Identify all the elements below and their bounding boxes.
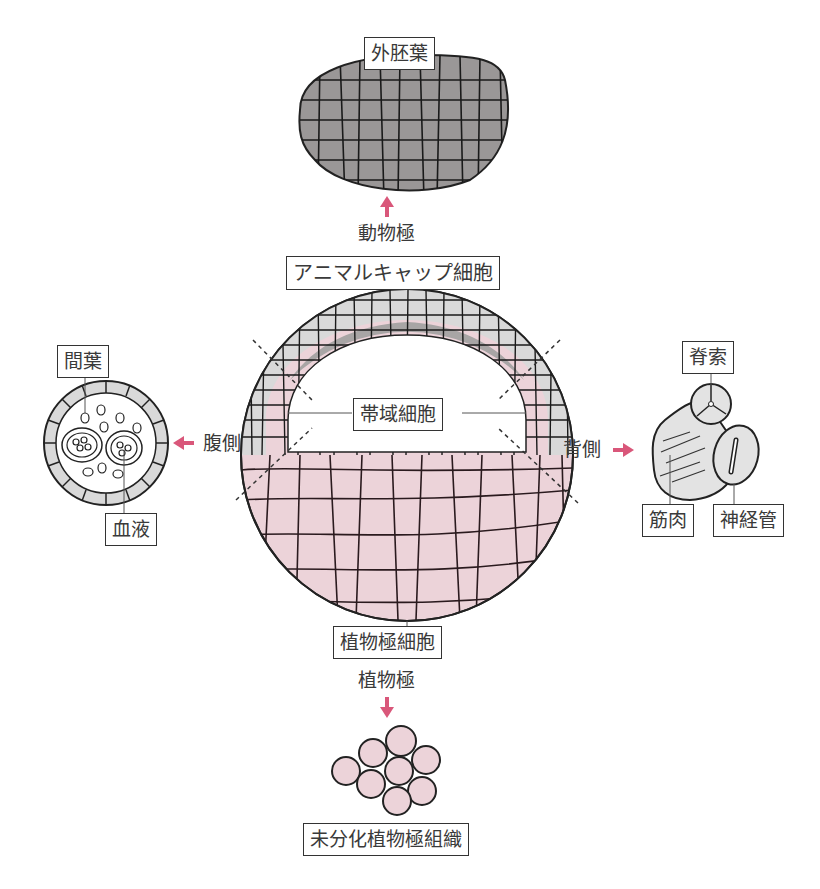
animal-cap-cells-label: アニマルキャップ細胞 <box>286 256 500 290</box>
neural-tube-label: 神経管 <box>713 504 784 537</box>
undifferentiated-vegetal-tissue-label: 未分化植物極組織 <box>303 823 469 856</box>
notochord-label: 脊索 <box>682 341 734 374</box>
ectoderm-label: 外胚葉 <box>364 37 435 70</box>
vegetal-pole-cells-label: 植物極細胞 <box>333 626 442 659</box>
muscle-label: 筋肉 <box>642 504 694 537</box>
undifferentiated-vegetal-cluster <box>332 726 440 815</box>
blastula <box>236 289 578 632</box>
diagram-canvas <box>0 0 820 889</box>
ventral-side-label: 腹側 <box>203 434 241 453</box>
vegetal-pole-label: 植物極 <box>358 671 415 690</box>
arrow-left-icon <box>173 436 194 450</box>
ventral-tissue <box>44 373 168 513</box>
animal-pole-label: 動物極 <box>358 224 415 243</box>
arrow-up-icon <box>380 196 394 217</box>
dorsal-tissue <box>653 372 765 504</box>
marginal-zone-cells-label: 帯域細胞 <box>353 398 443 431</box>
arrow-down-icon <box>380 697 394 718</box>
dorsal-side-label: 背側 <box>563 440 601 459</box>
arrow-right-icon <box>613 443 634 457</box>
blood-label: 血液 <box>105 513 157 546</box>
mesenchyme-label: 間葉 <box>57 345 109 378</box>
ectoderm-tissue <box>299 55 520 200</box>
